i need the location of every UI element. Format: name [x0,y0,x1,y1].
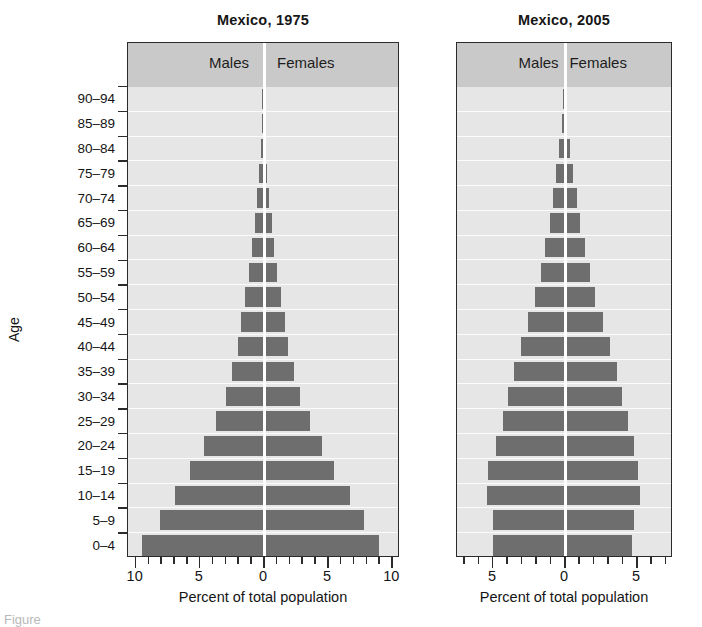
male-bar [550,213,564,232]
female-bar [263,486,350,505]
y-axis-tick-label: 55–59 [77,264,115,279]
chart-1-sex-band: Males Females [128,43,398,88]
y-axis-tick-label: 50–54 [77,289,115,304]
x-axis-minor-tick [212,557,214,564]
chart-2-sex-band: Males Females [457,43,671,88]
male-bar [241,312,263,331]
x-axis-minor-tick [366,557,368,564]
y-axis-tick-mark [118,160,127,161]
male-bar [245,287,263,306]
male-bar [190,461,263,480]
y-axis-tick-mark [118,185,127,186]
male-bar [488,461,564,480]
female-bar [564,436,634,455]
chart-2-plot-area [457,87,671,556]
female-bar [564,486,640,505]
chart-1-females-label: Females [263,54,335,71]
x-axis-minor-tick [186,557,188,564]
y-axis-tick-label: 90–94 [77,91,115,106]
x-axis-major-tick [492,557,494,568]
female-bar [564,535,632,555]
x-axis-minor-tick [463,557,465,564]
chart-2-title: Mexico, 2005 [456,12,672,28]
y-axis-tick-mark [118,86,127,87]
x-axis-minor-tick [353,557,355,564]
x-axis-minor-tick [314,557,316,564]
x-axis-minor-tick [578,557,580,564]
chart-1-panel: Males Females [127,42,399,557]
male-bar [204,436,263,455]
female-bar [263,287,281,306]
female-bar [263,362,294,381]
x-axis-minor-tick [650,557,652,564]
female-bar [263,436,322,455]
x-axis-minor-tick [622,557,624,564]
male-bar [142,535,263,555]
male-bar [255,213,263,232]
x-axis-minor-tick [173,557,175,564]
y-axis-tick-mark [118,408,127,409]
y-axis-tick-mark [118,458,127,459]
male-bar [175,486,263,505]
male-bar [226,387,263,406]
female-bar [263,387,300,406]
population-pyramid-figure: Mexico, 1975 Mexico, 2005 Age 0–45–910–1… [0,0,702,627]
y-axis-tick-label: 20–24 [77,438,115,453]
x-axis-minor-tick [535,557,537,564]
male-bar [545,238,564,257]
y-axis-tick-mark [118,260,127,261]
y-axis-tick-mark [118,309,127,310]
male-bar [503,411,564,430]
x-axis-tick-label: 10 [127,568,143,584]
female-bar [263,510,364,529]
male-bar [528,312,564,331]
female-bar [263,337,288,356]
x-axis-major-tick [564,557,566,568]
x-axis-major-tick [327,557,329,568]
female-bar [263,411,310,430]
x-axis-minor-tick [250,557,252,564]
x-axis-tick-label: 10 [383,568,399,584]
x-axis-tick-label: 5 [488,568,496,584]
x-axis-tick-label: 0 [560,568,568,584]
female-bar [564,312,603,331]
x-axis-minor-tick [665,557,667,564]
y-axis-tick-label: 30–34 [77,388,115,403]
chart-2-center-axis [564,87,567,556]
x-axis-tick-label: 5 [632,568,640,584]
figure-caption: Figure [4,612,41,627]
chart-1-plot-area [128,87,398,556]
female-bar [564,387,622,406]
y-axis-tick-mark [118,532,127,533]
y-axis-tick-label: 35–39 [77,364,115,379]
y-axis: Age 0–45–910–1415–1920–2425–2930–3435–39… [0,42,127,557]
y-axis-tick-label: 85–89 [77,116,115,131]
x-axis-minor-tick [506,557,508,564]
female-bar [564,238,585,257]
x-axis-minor-tick [301,557,303,564]
female-bar [263,312,285,331]
y-axis-tick-label: 70–74 [77,190,115,205]
female-bar [564,362,617,381]
male-bar [553,188,564,207]
y-axis-tick-label: 15–19 [77,463,115,478]
chart-1-title: Mexico, 1975 [127,12,399,28]
male-bar [556,164,564,183]
female-bar [564,510,634,529]
x-axis-minor-tick [378,557,380,564]
x-axis-tick-label: 5 [195,568,203,584]
male-bar [535,287,564,306]
chart-2-panel: Males Females [456,42,672,557]
y-axis-tick-label: 10–14 [77,488,115,503]
y-axis-tick-label: 45–49 [77,314,115,329]
y-axis-tick-mark [118,284,127,285]
x-axis-major-tick [263,557,265,568]
male-bar [541,263,564,282]
x-axis-tick-label: 5 [323,568,331,584]
female-bar [564,337,610,356]
x-axis-major-tick [199,557,201,568]
y-axis-tick-mark [118,334,127,335]
y-axis-tick-mark [118,359,127,360]
x-axis-minor-tick [225,557,227,564]
male-bar [493,510,564,529]
